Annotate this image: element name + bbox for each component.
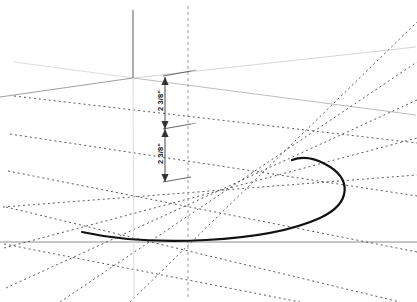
witness-line-middle (163, 124, 191, 129)
grid-solid-guide-a (133, 78, 416, 115)
arrowhead-upper-top (161, 77, 168, 85)
witness-line-bottom (163, 177, 191, 182)
grid-line-ur-1 (130, 22, 417, 302)
arrowhead-lower-top (161, 129, 168, 137)
grid-line-dr-2 (10, 134, 417, 196)
grid-line-ur-3 (6, 100, 417, 288)
grid-line-ur-5 (3, 175, 417, 207)
grid-lines-down-right (4, 96, 417, 302)
horizon-left-guide (14, 62, 133, 78)
z-axis-lower (133, 78, 134, 298)
grid-line-dr-4 (6, 207, 400, 302)
ellipse-arc-profile[interactable] (82, 158, 345, 241)
dimension-annotation-group[interactable] (161, 70, 196, 182)
grid-line-dr-5 (4, 244, 300, 302)
dimension-label-upper[interactable]: 2 3/8" (156, 90, 165, 111)
vertical-axis-group (133, 10, 134, 298)
grid-lines-up-right (3, 22, 417, 302)
drawing-canvas[interactable] (0, 0, 417, 302)
grid-line-ur-4 (4, 138, 417, 248)
witness-line-top (163, 71, 191, 76)
guide-lines-group (0, 47, 417, 242)
model-viewport[interactable]: 2 3/8" 2 3/8" (0, 0, 417, 302)
grid-line-dr-1 (14, 96, 417, 143)
witness-stub-middle (191, 123, 196, 124)
grid-solid-guide-b (0, 78, 133, 97)
dimension-label-lower[interactable]: 2 3/8" (156, 143, 165, 164)
